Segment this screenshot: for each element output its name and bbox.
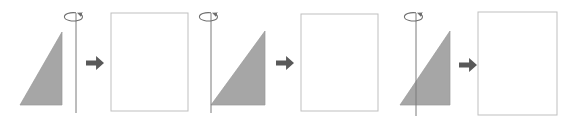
solids-of-revolution-figure: Three panels, each showing a shaded righ… — [0, 0, 578, 123]
figure-canvas — [0, 0, 578, 123]
result-box-3 — [478, 12, 557, 115]
result-box-1 — [111, 13, 188, 111]
result-box-2 — [301, 14, 378, 111]
